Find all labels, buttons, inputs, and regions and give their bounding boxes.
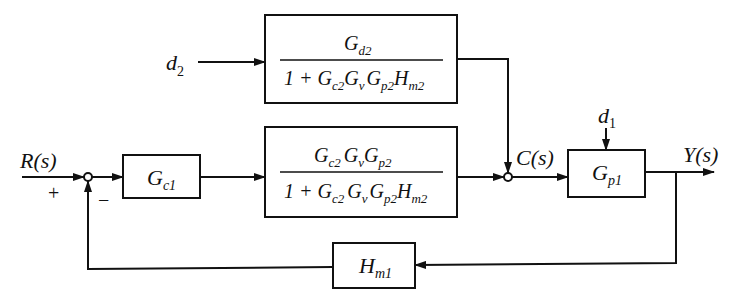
- disturbance-1-label: d1: [598, 103, 616, 131]
- minus-sign: −: [98, 189, 109, 211]
- plus-sign: +: [48, 182, 59, 204]
- disturbance-2-label: d2: [166, 50, 184, 79]
- summing-junction-1: [84, 173, 92, 181]
- disturbance-transfer-block: Gd2 1 + Gc2GvGp2Hm2: [265, 15, 457, 103]
- measurement-1-block: Hm1: [333, 243, 415, 288]
- controller-1-block: Gc1: [123, 155, 200, 198]
- process-1-block: Gp1: [568, 150, 645, 197]
- inner-loop-transfer-block: Gc2GvGp2 1 + Gc2GvGp2Hm2: [265, 127, 457, 217]
- input-signal-label: R(s): [19, 148, 57, 173]
- disturbance-path-arrow: [457, 59, 508, 173]
- output-signal-label: Y(s): [683, 142, 718, 167]
- summing-junction-2: [504, 173, 512, 181]
- intermediate-signal-label: C(s): [516, 145, 554, 170]
- block-diagram: R(s) + − Gc1 d2 Gd2 1 + Gc2GvGp2Hm2 Gc2G…: [0, 0, 734, 305]
